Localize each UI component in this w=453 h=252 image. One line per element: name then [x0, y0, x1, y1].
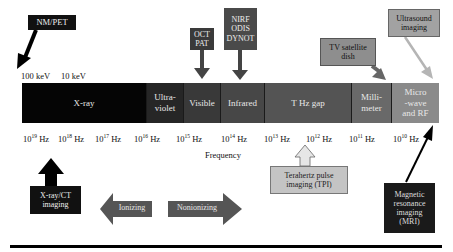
segment-thz-gap-label: T Hz gap: [291, 98, 324, 109]
nm-pet-box: NM/PET: [28, 15, 76, 30]
segment-ultraviolet: Ultra- violet: [147, 83, 184, 123]
ultrasound-box: Ultrasound imaging: [388, 9, 440, 37]
ionizing-label: Ionizing: [112, 203, 152, 212]
ultrasound-label: Ultrasound imaging: [396, 14, 432, 32]
nirf-arrow-icon: [232, 50, 248, 80]
nirf-odis-dynot-label: NIRF ODIS DYNOT: [227, 15, 255, 43]
freq-tick: 1012 Hz: [306, 133, 332, 144]
nonionizing-label: Nonionizing: [168, 203, 226, 212]
segment-infrared: Infrared: [221, 83, 265, 123]
oct-pat-label: OCT PAT: [194, 30, 210, 48]
tv-satellite-arrow-icon: [372, 66, 386, 80]
segment-infrared-label: Infrared: [228, 98, 257, 109]
segment-thz-gap: T Hz gap: [265, 83, 352, 123]
freq-tick: 1011 Hz: [349, 133, 375, 144]
tpi-arrow-icon: [295, 145, 315, 166]
segment-ultraviolet-label: Ultra- violet: [154, 92, 176, 114]
energy-label-10kev: 10 keV: [61, 71, 86, 81]
segment-xray-label: X-ray: [74, 98, 95, 109]
freq-tick: 1013 Hz: [264, 133, 290, 144]
segment-microwave-rf-label: Micro -wave and RF: [402, 87, 428, 119]
nirf-odis-dynot-box: NIRF ODIS DYNOT: [224, 8, 257, 50]
xray-ct-label: X-ray/CT imaging: [40, 191, 71, 209]
ultrasound-arrow-icon: [405, 37, 433, 79]
oct-pat-arrow-icon: [194, 50, 210, 79]
freq-tick: 1017 Hz: [95, 133, 121, 144]
freq-tick: 1019 Hz: [23, 133, 49, 144]
mri-label: Magnetic resonance imaging (MRI): [394, 190, 426, 227]
tv-satellite-box: TV satellite dish: [320, 38, 376, 66]
segment-visible-label: Visible: [189, 98, 214, 109]
xray-ct-box: X-ray/CT imaging: [30, 186, 81, 214]
mri-box: Magnetic resonance imaging (MRI): [384, 183, 435, 233]
freq-tick: 1015 Hz: [176, 133, 202, 144]
segment-microwave-rf: Micro -wave and RF: [392, 83, 439, 123]
freq-tick: 1016 Hz: [134, 133, 160, 144]
segment-millimeter: Milli- meter: [352, 83, 392, 123]
tpi-box: Terahertz pulse imaging (TPI): [270, 166, 348, 194]
tpi-label: Terahertz pulse imaging (TPI): [285, 171, 334, 189]
frequency-axis-label: Frequency: [205, 150, 241, 160]
nm-pet-arrow-icon: [17, 30, 36, 69]
bottom-rule: [10, 245, 442, 248]
segment-visible: Visible: [184, 83, 221, 123]
energy-label-100kev: 100 keV: [21, 71, 50, 81]
freq-tick: 1014 Hz: [221, 133, 247, 144]
segment-xray: X-ray: [22, 83, 147, 123]
freq-tick: 1010 Hz: [393, 133, 419, 144]
oct-pat-box: OCT PAT: [190, 28, 214, 50]
freq-tick: 1018 Hz: [58, 133, 84, 144]
tv-satellite-label: TV satellite dish: [329, 43, 366, 61]
nm-pet-label: NM/PET: [36, 18, 67, 28]
segment-millimeter-label: Milli- meter: [361, 92, 382, 114]
